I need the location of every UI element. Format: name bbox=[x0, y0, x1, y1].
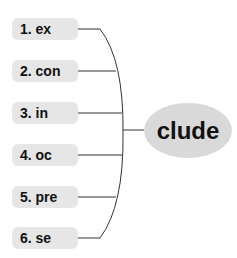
prefix-box-2: 2. con bbox=[12, 60, 78, 82]
prefix-box-1: 1. ex bbox=[12, 18, 78, 40]
root-ellipse: clude bbox=[144, 103, 232, 158]
prefix-box-5: 5. pre bbox=[12, 186, 78, 208]
prefix-box-4: 4. oc bbox=[12, 144, 78, 166]
prefix-box-3: 3. in bbox=[12, 102, 78, 124]
prefix-box-6: 6. se bbox=[12, 227, 78, 249]
root-label: clude bbox=[157, 117, 220, 145]
